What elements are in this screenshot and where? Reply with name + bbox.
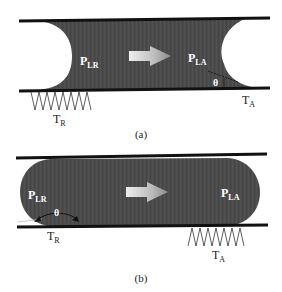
panel-a: PLR PLA θ TA TR (a) [19,18,270,141]
caption-b: (b) [135,272,148,285]
heater-spring-icon-b [188,228,244,246]
tube-wall-bottom-b [17,225,268,227]
panel-b: PLR PLA θ TR TA (b) [16,154,268,285]
label-angle-a: θ [213,77,218,88]
diagram-canvas: PLR PLA θ TA TR (a) PLR PLA θ TR TA (b) [0,0,282,292]
label-temp-advancing-b: TA [212,248,225,264]
caption-a: (a) [135,128,148,141]
label-temp-receding-b: TR [47,229,60,245]
label-angle-b: θ [54,207,59,218]
heater-spring-icon-a [31,92,91,110]
label-temp-advancing-a: TA [242,93,255,109]
tube-wall-top-b [16,154,267,158]
label-temp-receding-a: TR [53,112,66,128]
